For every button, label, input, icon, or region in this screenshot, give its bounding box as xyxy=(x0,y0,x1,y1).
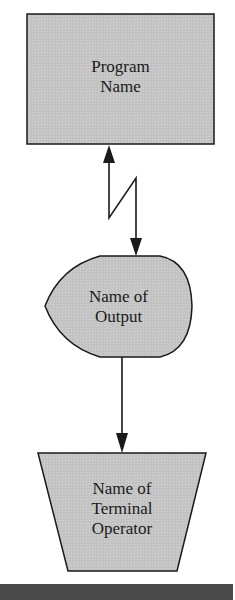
terminal-label-line-2: Terminal xyxy=(38,499,206,519)
communication-link xyxy=(103,145,142,256)
output-label: Name of Output xyxy=(45,287,192,327)
lightning-bolt-line xyxy=(109,158,136,242)
bottom-rule-bar xyxy=(0,584,233,600)
output-label-line-1: Name of xyxy=(45,287,192,307)
program-label-line-1: Program xyxy=(27,57,214,77)
output-to-terminal-arrow xyxy=(116,357,128,453)
arrow-down-icon xyxy=(130,238,142,256)
program-label: Program Name xyxy=(27,57,214,97)
output-label-line-2: Output xyxy=(45,307,192,327)
terminal-label: Name of Terminal Operator xyxy=(38,479,206,539)
terminal-label-line-3: Operator xyxy=(38,519,206,539)
arrow-down-icon xyxy=(116,433,128,453)
arrow-up-icon xyxy=(103,145,115,163)
program-label-line-2: Name xyxy=(27,77,214,97)
terminal-label-line-1: Name of xyxy=(38,479,206,499)
